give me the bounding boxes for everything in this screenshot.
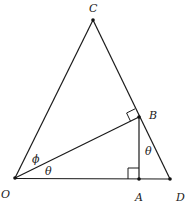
label-O: O [1, 188, 10, 201]
segment-CD [93, 20, 170, 179]
segment-OB [15, 117, 139, 178]
label-C: C [89, 2, 98, 15]
segment-OD [15, 179, 170, 180]
label-A: A [134, 191, 143, 202]
angle-phi-label: ϕ [32, 153, 40, 166]
point-A [137, 177, 141, 181]
segment-OC [15, 20, 93, 178]
point-D [168, 177, 172, 181]
angle-theta-O-label: θ [45, 165, 52, 178]
point-C [91, 18, 95, 22]
geometry-diagram: C B O A D ϕ θ θ [0, 0, 187, 202]
label-D: D [175, 191, 185, 202]
angle-theta-B-label: θ [145, 145, 152, 158]
label-B: B [148, 109, 157, 122]
point-O [13, 176, 17, 180]
point-B [137, 115, 141, 119]
right-angle-marker-A [128, 168, 139, 179]
